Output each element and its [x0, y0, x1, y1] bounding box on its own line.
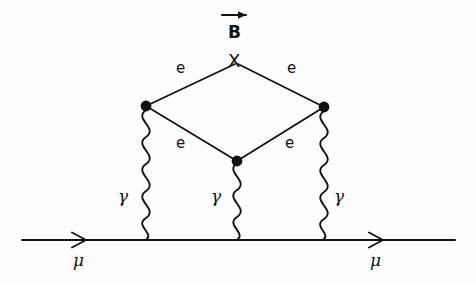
photon-wave-right	[320, 111, 328, 240]
electron-label-lower-right: e	[285, 136, 294, 151]
electron-line-upper-right	[238, 64, 324, 107]
electron-line-lower-left	[146, 106, 237, 161]
photon-label-right: γ	[334, 188, 344, 205]
x-vertex-label: X	[228, 52, 240, 70]
left-loop-vertex-dot	[141, 101, 152, 112]
electron-line-upper-left	[146, 64, 235, 106]
electron-label-upper-left: e	[176, 61, 185, 76]
electron-line-lower-right	[237, 107, 324, 161]
b-field-label: B	[228, 24, 241, 41]
electron-label-upper-right: e	[287, 61, 296, 76]
photon-wave-center	[233, 163, 241, 240]
photon-label-left: γ	[118, 188, 128, 205]
muon-label-left: μ	[73, 252, 84, 269]
right-loop-vertex-dot	[319, 102, 330, 113]
muon-label-right: μ	[370, 252, 381, 269]
photon-label-center: γ	[211, 188, 221, 205]
b-field-vector-arrow-icon	[222, 11, 246, 18]
bottom-loop-vertex-dot	[232, 156, 243, 167]
electron-label-lower-left: e	[176, 136, 185, 151]
diagram-canvas	[0, 0, 476, 284]
photon-wave-left	[142, 110, 150, 240]
feynman-diagram-figure: B X e e e e γ γ γ μ μ	[0, 0, 476, 284]
